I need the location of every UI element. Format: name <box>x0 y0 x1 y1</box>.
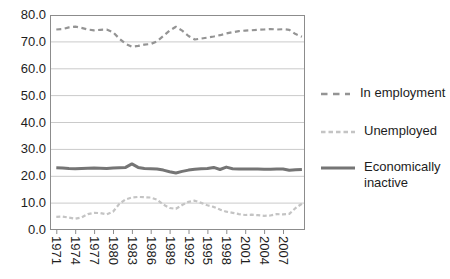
y-tick-label: 70.0 <box>4 34 46 50</box>
legend-label-economically-inactive: Economically inactive <box>364 159 450 191</box>
legend-line-in-employment-icon <box>320 90 352 98</box>
legend-line-economically-inactive-icon <box>320 164 356 172</box>
x-tick-label: 1989 <box>164 236 177 265</box>
legend-item-economically-inactive: Economically inactive <box>320 159 450 191</box>
x-tick-label: 1974 <box>69 236 82 265</box>
x-tick-label: 1980 <box>107 236 120 265</box>
y-tick-label: 60.0 <box>4 61 46 77</box>
x-tick-label: 2004 <box>258 236 271 265</box>
plot-svg <box>50 15 306 236</box>
legend-label-unemployed: Unemployed <box>364 123 437 139</box>
x-tick-label: 1977 <box>88 236 101 265</box>
legend-line-unemployed-icon <box>320 128 356 136</box>
legend-item-in-employment: In employment <box>320 85 445 101</box>
y-tick-label: 50.0 <box>4 88 46 104</box>
employment-chart: 80.070.060.050.040.030.020.010.00.0 1971… <box>0 0 450 279</box>
legend-label-in-employment: In employment <box>360 85 445 101</box>
x-tick-label: 2007 <box>277 236 290 265</box>
legend-item-unemployed: Unemployed <box>320 123 437 139</box>
x-tick-label: 1983 <box>126 236 139 265</box>
y-tick-label: 0.0 <box>4 222 46 238</box>
y-tick-label: 80.0 <box>4 7 46 23</box>
x-tick-label: 1998 <box>220 236 233 265</box>
y-tick-label: 10.0 <box>4 195 46 211</box>
series-line-unemployed <box>56 197 302 219</box>
y-tick-label: 40.0 <box>4 115 46 131</box>
legend: In employment Unemployed Economically in… <box>320 0 450 279</box>
y-tick-label: 20.0 <box>4 168 46 184</box>
series-line-in-employment <box>56 27 302 47</box>
x-tick-label: 1971 <box>50 236 63 265</box>
y-tick-label: 30.0 <box>4 141 46 157</box>
x-tick-label: 2001 <box>239 236 252 265</box>
x-tick-label: 1995 <box>201 236 214 265</box>
series-line-economically-inactive <box>56 164 302 173</box>
x-tick-label: 1986 <box>145 236 158 265</box>
x-tick-label: 1992 <box>183 236 196 265</box>
